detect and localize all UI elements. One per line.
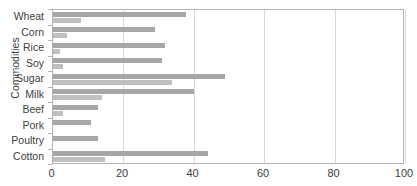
bar [53,157,106,162]
bar [53,105,99,110]
bar-group [53,57,404,73]
bar-group [53,10,404,26]
bar [53,74,226,79]
bar-group [53,26,404,42]
bar [53,111,64,116]
gridline-100 [405,10,406,163]
y-axis-tick [48,40,52,41]
y-axis-label-soy: Soy [26,58,44,69]
x-axis-label-20: 20 [116,167,128,179]
y-axis-label-rice: Rice [23,42,44,53]
x-axis-label-80: 80 [327,167,339,179]
y-axis-label-beef: Beef [22,104,44,115]
bar [53,64,64,69]
bar [53,80,173,85]
y-axis-label-poultry: Poultry [11,135,44,146]
bar [53,120,92,125]
y-axis-label-wheat: Wheat [14,11,44,22]
y-axis-tick [48,87,52,88]
y-axis-tick-labels: WheatCornRiceSoySugarMilkBeefPorkPoultry… [0,9,48,164]
bar [53,43,166,48]
y-axis-label-cotton: Cotton [13,151,44,162]
bar-group [53,103,404,119]
bar-group [53,72,404,88]
y-axis-tick [48,149,52,150]
bar-group [53,41,404,57]
x-axis-label-0: 0 [48,167,54,179]
bar-group [53,150,404,166]
bar [53,27,155,32]
y-axis-tick [48,9,52,10]
y-axis-tick [48,102,52,103]
y-axis-label-corn: Corn [21,27,44,38]
y-axis-tick [48,56,52,57]
x-axis-label-100: 100 [395,167,413,179]
x-axis-label-60: 60 [257,167,269,179]
y-axis-label-milk: Milk [25,89,44,100]
y-axis-tick [48,164,52,165]
y-axis-tick [48,133,52,134]
bar [53,58,162,63]
x-axis-tick-labels: 020406080100 [0,167,417,183]
bar-group [53,88,404,104]
y-axis-tick [48,71,52,72]
bar [53,136,99,141]
y-axis-label-sugar: Sugar [16,73,44,84]
y-axis-tick [48,118,52,119]
y-axis-tick [48,25,52,26]
bar [53,89,194,94]
bar [53,49,60,54]
plot-area [52,9,405,164]
y-axis-label-pork: Pork [22,120,44,131]
x-axis-label-40: 40 [186,167,198,179]
bar [53,18,81,23]
bar-series-group [53,10,404,163]
bar [53,33,67,38]
bar-chart: Commodities WheatCornRiceSoySugarMilkBee… [0,0,417,186]
bar-group [53,134,404,150]
bar [53,12,187,17]
bar [53,151,208,156]
bar-group [53,119,404,135]
bar [53,95,102,100]
